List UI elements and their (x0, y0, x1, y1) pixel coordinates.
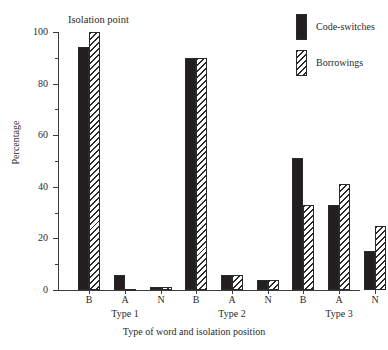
bar-type-2-B-code-switches (185, 58, 196, 290)
bar-type-2-A-borrowings (232, 275, 243, 290)
bar-type-3-N-code-switches (364, 251, 375, 290)
y-tick-minor (55, 109, 58, 110)
bar-type-3-B-borrowings (303, 205, 314, 290)
y-tick-label: 60 (8, 130, 48, 140)
bar-type-2-N-borrowings (268, 280, 279, 290)
y-tick-major (53, 238, 58, 239)
x-tick-label-B: B (181, 294, 211, 305)
bar-type-3-A-code-switches (328, 205, 339, 290)
legend-label-code-switches: Code-switches (316, 21, 375, 32)
legend-swatch-hatch-icon (296, 50, 307, 76)
x-tick-label-A: A (110, 294, 140, 305)
x-tick-label-B: B (288, 294, 318, 305)
legend-label-borrowings: Borrowings (316, 57, 363, 68)
y-tick-major (53, 135, 58, 136)
chart-title: Isolation point (68, 14, 129, 25)
y-tick-label: 0 (8, 285, 48, 295)
y-axis-line (58, 32, 59, 291)
y-tick-major (53, 290, 58, 291)
bar-type-2-A-code-switches (221, 275, 232, 290)
y-tick-major (53, 84, 58, 85)
x-group-label-type-3: Type 3 (304, 308, 374, 319)
bar-type-3-B-code-switches (292, 158, 303, 290)
legend-swatch-solid-icon (296, 14, 307, 40)
x-tick-label-B: B (74, 294, 104, 305)
bar-type-2-N-code-switches (257, 280, 268, 290)
y-tick-major (53, 187, 58, 188)
x-tick-label-N: N (360, 294, 388, 305)
bar-type-3-N-borrowings (375, 226, 386, 291)
x-axis-line (58, 290, 360, 291)
bar-type-1-A-code-switches (114, 275, 125, 290)
bar-chart: Isolation point Percentage Type of word … (0, 0, 388, 350)
bar-type-1-N-code-switches (150, 287, 161, 290)
y-tick-minor (55, 213, 58, 214)
bar-type-2-B-borrowings (196, 58, 207, 290)
bar-type-1-B-code-switches (78, 47, 89, 290)
y-tick-label: 100 (8, 27, 48, 37)
x-tick-label-A: A (324, 294, 354, 305)
bar-type-1-A-borrowings (125, 289, 136, 291)
bar-type-1-B-borrowings (89, 32, 100, 290)
bar-type-1-N-borrowings (161, 287, 172, 290)
x-axis-title: Type of word and isolation position (0, 326, 388, 337)
y-axis-title: Percentage (10, 98, 21, 188)
bar-type-3-A-borrowings (339, 184, 350, 290)
x-group-label-type-2: Type 2 (197, 308, 267, 319)
y-tick-label: 40 (8, 182, 48, 192)
y-tick-minor (55, 161, 58, 162)
x-tick-label-A: A (217, 294, 247, 305)
x-tick-label-N: N (146, 294, 176, 305)
y-tick-major (53, 32, 58, 33)
x-tick-label-N: N (253, 294, 283, 305)
y-tick-minor (55, 58, 58, 59)
y-tick-label: 80 (8, 79, 48, 89)
x-group-label-type-1: Type 1 (90, 308, 160, 319)
y-tick-label: 20 (8, 233, 48, 243)
y-tick-minor (55, 264, 58, 265)
